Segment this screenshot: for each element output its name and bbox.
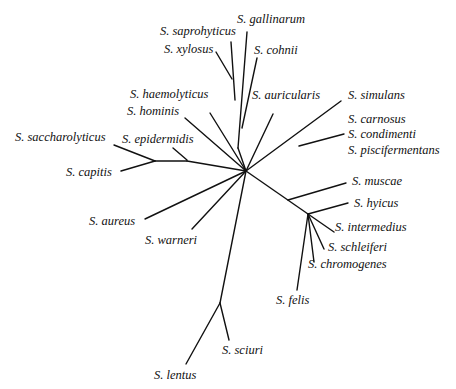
taxon-label-lentus: S. lentus [154, 368, 196, 382]
branch-hominis [185, 118, 246, 171]
taxon-label-hominis: S. hominis [127, 104, 179, 118]
taxon-label-gallinarum: S. gallinarum [237, 12, 305, 26]
taxon-label-capitis: S. capitis [66, 165, 112, 179]
tree-branches [0, 0, 456, 389]
branch-saccharolyticus [114, 145, 155, 161]
branch-simulans [246, 101, 341, 171]
branch-capitis [121, 161, 155, 171]
taxon-label-chromogenes: S. chromogenes [308, 257, 387, 271]
taxon-label-condimenti: S. condimenti [348, 127, 416, 141]
branch-warneri [192, 171, 246, 229]
taxon-label-haemolyticus: S. haemolyticus [130, 87, 208, 101]
taxon-label-hyicus: S. hyicus [354, 196, 398, 210]
branch-xylosus [216, 52, 232, 79]
branch-sciuri-stem [220, 171, 246, 303]
branch-epidermidis [173, 148, 187, 160]
taxon-label-carnosus: S. carnosus [348, 112, 406, 126]
taxon-label-sciuri: S. sciuri [222, 343, 263, 357]
branch-sciuri [220, 303, 229, 340]
taxon-label-epidermidis: S. epidermidis [122, 132, 194, 146]
taxon-label-warneri: S. warneri [145, 233, 197, 247]
branch-lentus [186, 303, 220, 364]
taxon-label-simulans: S. simulans [348, 88, 405, 102]
taxon-label-schleiferi: S. schleiferi [328, 240, 387, 254]
taxon-label-cohnii: S. cohnii [254, 43, 298, 57]
branch-carnosus [299, 134, 344, 146]
branch-aureus [145, 171, 246, 219]
branch-auricularis [246, 114, 273, 171]
taxon-label-felis: S. felis [276, 293, 309, 307]
branch-saprohyticus [231, 42, 235, 100]
taxon-label-piscifermentans: S. piscifermentans [348, 143, 440, 157]
taxon-label-xylosus: S. xylosus [164, 42, 213, 56]
branch-felis [297, 214, 308, 290]
taxon-label-muscae: S. muscae [352, 174, 402, 188]
branch-hyicus-stem [246, 171, 308, 214]
branch-hyicus [308, 203, 348, 214]
taxon-label-aureus: S. aureus [89, 214, 135, 228]
taxon-label-intermedius: S. intermedius [335, 220, 407, 234]
taxon-label-saccharolyticus: S. saccharolyticus [15, 130, 106, 144]
taxon-label-saprohyticus: S. saprohyticus [160, 24, 236, 38]
branch-gallinarum [238, 32, 247, 148]
taxon-label-auricularis: S. auricularis [252, 88, 320, 102]
branch-muscae [288, 183, 346, 200]
